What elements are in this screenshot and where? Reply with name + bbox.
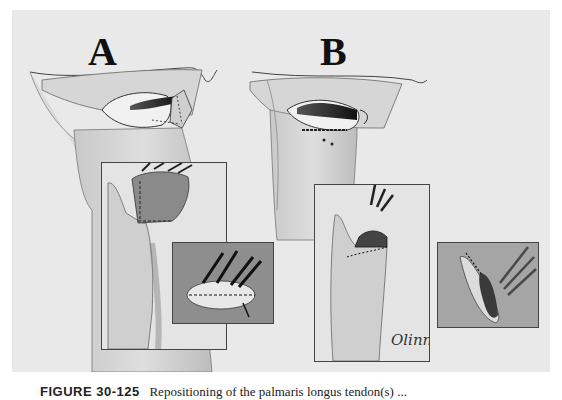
artist-signature: Olinn: [391, 331, 430, 349]
figure-caption: FIGURE 30-125 Repositioning of the palma…: [40, 384, 560, 400]
panel-label-a: A: [88, 32, 117, 72]
caption-text: Repositioning of the palmaris longus ten…: [149, 384, 406, 399]
inset-b-detail-2: [437, 242, 539, 328]
inset-a-detail-2: [172, 242, 274, 324]
figure-number: FIGURE 30-125: [40, 384, 140, 399]
inset-a2-drawing: [173, 243, 273, 323]
surgical-illustration: A B Olinn: [12, 10, 550, 372]
inset-b2-drawing: [438, 243, 538, 327]
panel-label-b: B: [320, 32, 347, 72]
inset-b-detail-1: Olinn: [314, 184, 430, 362]
